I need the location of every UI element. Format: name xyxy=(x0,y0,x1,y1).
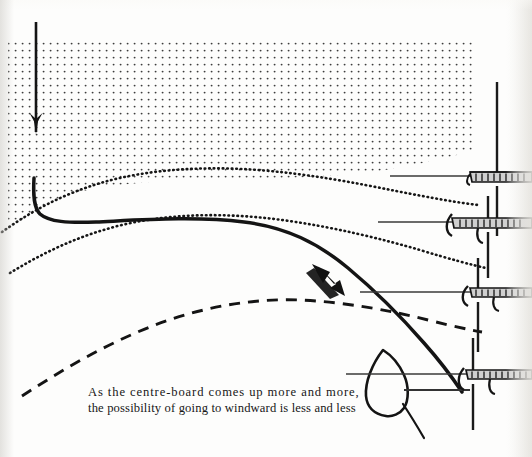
figure-page: As the centre-board comes up more and mo… xyxy=(0,0,532,457)
caption-line-1: As the centre-board comes up more and mo… xyxy=(88,385,388,401)
page-edge-shading xyxy=(506,0,532,457)
caption-line-2: the possibility of going to windward is … xyxy=(88,401,388,417)
figure-caption: As the centre-board comes up more and mo… xyxy=(88,385,388,416)
